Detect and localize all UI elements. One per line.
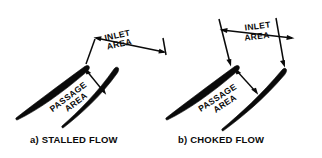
caption-choked-flow: b) CHOKED FLOW	[178, 134, 264, 145]
figure-container: INLET AREA PASSAGE AREA a) STALLED FLOW	[0, 0, 322, 158]
inlet-area-label-choked: INLET AREA	[242, 19, 272, 42]
passage-area-dimension-choked	[234, 68, 258, 95]
inlet-area-label-line2: AREA	[244, 30, 270, 43]
panel-choked-flow: INLET AREA PASSAGE AREA b) CHOKED FLOW	[166, 18, 295, 145]
panel-stalled-flow: INLET AREA PASSAGE AREA a) STALLED FLOW	[16, 27, 167, 145]
passage-area-dimension-stalled	[84, 68, 106, 95]
passage-area-label-choked: PASSAGE AREA	[196, 81, 243, 121]
passage-area-label-stalled: PASSAGE AREA	[48, 79, 94, 121]
caption-stalled-flow: a) STALLED FLOW	[30, 134, 118, 145]
diagram-canvas: INLET AREA PASSAGE AREA a) STALLED FLOW	[0, 0, 322, 158]
inlet-area-label-stalled: INLET AREA	[104, 27, 134, 51]
